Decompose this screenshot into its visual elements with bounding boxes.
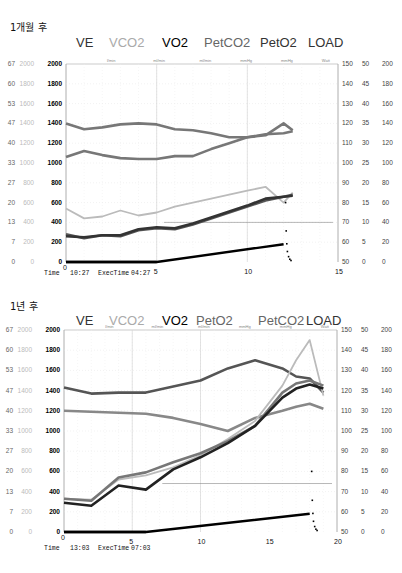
plot-1year: [0, 0, 402, 573]
series-vco2: [64, 381, 323, 501]
series-ve: [64, 340, 323, 500]
series-vo2: [64, 385, 323, 506]
series-petco2: [64, 404, 323, 431]
footer-time-label: Time: [44, 545, 60, 552]
footer-exec-label: ExecTime: [98, 545, 129, 552]
footer-time: 13:03: [70, 545, 90, 552]
series-peto2: [64, 360, 323, 393]
footer-exec: 07:03: [131, 545, 151, 552]
